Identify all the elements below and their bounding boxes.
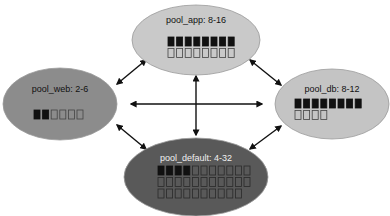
active-connection-slot bbox=[202, 37, 208, 46]
active-connection-slot bbox=[43, 110, 49, 119]
pool-diagram: pool_app: 8-16pool_web: 2-6pool_db: 8-12… bbox=[0, 0, 390, 216]
pool-app-node: pool_app: 8-16 bbox=[132, 5, 260, 75]
active-connection-slot bbox=[167, 166, 173, 175]
pool-label: pool_web: 2-6 bbox=[32, 84, 89, 94]
active-connection-slot bbox=[312, 99, 318, 108]
pool-label: pool_db: 8-12 bbox=[304, 84, 359, 94]
active-connection-slot bbox=[158, 166, 164, 175]
active-connection-slot bbox=[34, 110, 40, 119]
pool-db-node: pool_db: 8-12 bbox=[275, 69, 389, 139]
active-connection-slot bbox=[321, 99, 327, 108]
active-connection-slot bbox=[295, 99, 301, 108]
active-connection-slot bbox=[220, 37, 226, 46]
active-connection-slot bbox=[175, 166, 181, 175]
active-connection-slot bbox=[228, 37, 234, 46]
pool-label: pool_default: 4-32 bbox=[160, 153, 232, 163]
arrow-default-db bbox=[250, 126, 281, 149]
active-connection-slot bbox=[185, 37, 191, 46]
active-connection-slot bbox=[338, 99, 344, 108]
active-connection-slot bbox=[355, 99, 361, 108]
pool-web-node: pool_web: 2-6 bbox=[3, 68, 117, 140]
active-connection-slot bbox=[329, 99, 335, 108]
arrow-app-db bbox=[250, 60, 281, 85]
active-connection-slot bbox=[211, 37, 217, 46]
pool-ellipse bbox=[3, 68, 117, 140]
active-connection-slot bbox=[347, 99, 353, 108]
arrow-web-app bbox=[117, 60, 146, 84]
pool-label: pool_app: 8-16 bbox=[166, 15, 226, 25]
pool-default-node: pool_default: 4-32 bbox=[124, 138, 268, 216]
active-connection-slot bbox=[177, 37, 183, 46]
active-connection-slot bbox=[184, 166, 190, 175]
pool-ellipse bbox=[124, 138, 268, 216]
active-connection-slot bbox=[194, 37, 200, 46]
active-connection-slot bbox=[168, 37, 174, 46]
active-connection-slot bbox=[304, 99, 310, 108]
arrow-web-default bbox=[117, 125, 146, 149]
